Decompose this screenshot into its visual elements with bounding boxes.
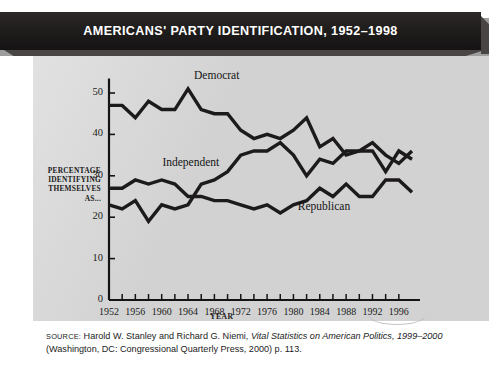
y-axis-label-line-0: PERCENTAGE xyxy=(33,166,101,175)
chart-title: AMERICANS' PARTY IDENTIFICATION, 1952–19… xyxy=(83,24,397,38)
series-line-democrat xyxy=(109,89,412,172)
y-axis-label: PERCENTAGEIDENTIFYINGTHEMSELVESAS... xyxy=(33,166,101,203)
y-tick-label-0: 0 xyxy=(75,293,103,304)
series-label-independent: Independent xyxy=(162,156,219,168)
y-tick-label-10: 10 xyxy=(75,252,103,263)
y-axis-label-line-3: AS... xyxy=(33,194,101,203)
source-publisher: (Washington, DC: Congressional Quarterly… xyxy=(46,344,302,354)
data-lines xyxy=(109,89,412,221)
x-tick-label-1996: 1996 xyxy=(383,306,415,317)
series-label-republican: Republican xyxy=(298,200,350,212)
series-line-republican xyxy=(109,180,412,213)
axis-ticks xyxy=(109,93,399,300)
series-label-democrat: Democrat xyxy=(194,69,239,81)
axis-lines xyxy=(109,79,420,300)
source-authors: Harold W. Stanley and Richard G. Niemi, xyxy=(81,331,251,341)
source-prefix: SOURCE: xyxy=(46,332,81,341)
y-tick-label-40: 40 xyxy=(75,127,103,138)
x-axis-label: YEAR xyxy=(210,312,234,321)
source-note: SOURCE: Harold W. Stanley and Richard G.… xyxy=(46,330,476,357)
y-tick-label-20: 20 xyxy=(75,210,103,221)
y-tick-label-50: 50 xyxy=(75,86,103,97)
banner-bar: AMERICANS' PARTY IDENTIFICATION, 1952–19… xyxy=(0,12,481,50)
title-banner: AMERICANS' PARTY IDENTIFICATION, 1952–19… xyxy=(0,12,489,56)
y-axis-label-line-1: IDENTIFYING xyxy=(33,175,101,184)
chart-panel: 01020304050 1952195619601964196819721976… xyxy=(33,56,489,321)
source-title: Vital Statistics on American Politics, 1… xyxy=(251,331,443,341)
y-axis-label-line-2: THEMSELVES xyxy=(33,184,101,193)
